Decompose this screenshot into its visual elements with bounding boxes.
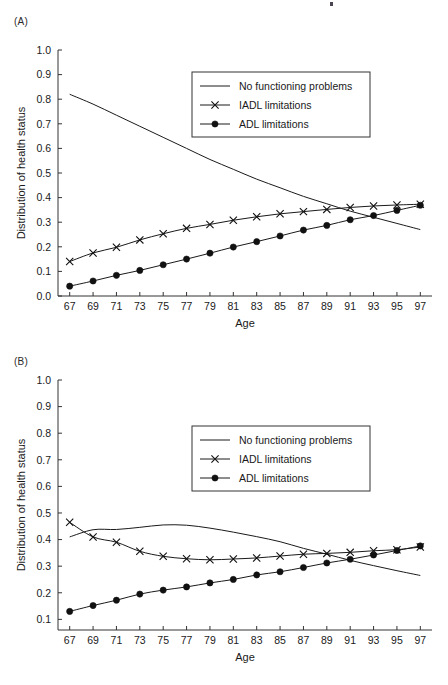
y-tick-label: 1.0	[36, 44, 51, 56]
y-tick-label: 0.1	[36, 613, 51, 625]
x-tick-label: 79	[204, 300, 216, 312]
y-tick-label: 0.8	[36, 427, 51, 439]
x-tick-label: 77	[181, 634, 193, 646]
series-line-3	[70, 546, 421, 611]
dot-marker-icon	[113, 272, 119, 278]
x-tick-label: 71	[111, 634, 123, 646]
x-tick-label: 81	[227, 634, 239, 646]
legend-label: IADL limitations	[239, 99, 312, 111]
x-tick-label: 73	[134, 300, 146, 312]
dot-marker-icon	[137, 591, 143, 597]
x-tick-label: 79	[204, 634, 216, 646]
dot-marker-icon	[137, 267, 143, 273]
panel-a: (A) 0.00.10.20.30.40.50.60.70.80.91.0676…	[0, 0, 448, 345]
dot-marker-icon	[324, 560, 330, 566]
dot-marker-icon	[254, 239, 260, 245]
x-marker-icon	[136, 548, 143, 555]
legend-label: No functioning problems	[239, 434, 352, 446]
x-marker-icon	[160, 230, 167, 237]
dot-marker-icon	[113, 597, 119, 603]
y-tick-label: 0.9	[36, 68, 51, 80]
legend-label: ADL limitations	[239, 118, 309, 130]
x-marker-icon	[89, 249, 96, 256]
y-tick-label: 0.9	[36, 400, 51, 412]
dot-marker-icon	[347, 217, 353, 223]
x-tick-label: 69	[87, 300, 99, 312]
x-tick-label: 85	[274, 300, 286, 312]
x-tick-label: 93	[368, 300, 380, 312]
dot-marker-icon	[417, 543, 423, 549]
series-line-2	[70, 522, 421, 560]
y-tick-label: 0.5	[36, 507, 51, 519]
dot-marker-icon	[300, 564, 306, 570]
legend-dot-marker-icon	[212, 121, 218, 127]
y-tick-label: 0.2	[36, 241, 51, 253]
legend-label: ADL limitations	[239, 472, 309, 484]
y-tick-label: 0.4	[36, 191, 51, 203]
dot-marker-icon	[417, 202, 423, 208]
dot-marker-icon	[394, 207, 400, 213]
x-tick-label: 75	[157, 634, 169, 646]
x-tick-label: 97	[414, 300, 426, 312]
x-tick-label: 69	[87, 634, 99, 646]
x-tick-label: 67	[64, 300, 76, 312]
y-tick-label: 0.5	[36, 167, 51, 179]
x-tick-label: 85	[274, 634, 286, 646]
dot-marker-icon	[254, 572, 260, 578]
x-marker-icon	[136, 236, 143, 243]
dot-marker-icon	[207, 580, 213, 586]
dot-marker-icon	[90, 602, 96, 608]
x-marker-icon	[66, 519, 73, 526]
x-tick-label: 83	[251, 300, 263, 312]
y-tick-label: 0.8	[36, 93, 51, 105]
x-axis-title: Age	[235, 651, 255, 663]
dot-marker-icon	[370, 212, 376, 218]
y-tick-label: 0.2	[36, 587, 51, 599]
dot-marker-icon	[230, 576, 236, 582]
dot-marker-icon	[370, 552, 376, 558]
x-tick-label: 95	[391, 634, 403, 646]
y-tick-label: 0.6	[36, 142, 51, 154]
dot-marker-icon	[160, 262, 166, 268]
x-marker-icon	[113, 539, 120, 546]
x-tick-label: 95	[391, 300, 403, 312]
dot-marker-icon	[324, 222, 330, 228]
chart-b: 0.10.20.30.40.50.60.70.80.91.06769717375…	[0, 340, 448, 685]
x-tick-label: 97	[414, 634, 426, 646]
y-tick-label: 0.6	[36, 480, 51, 492]
series-line-2	[70, 204, 421, 261]
dot-marker-icon	[183, 584, 189, 590]
y-tick-label: 0.0	[36, 290, 51, 302]
dot-marker-icon	[347, 556, 353, 562]
x-tick-label: 87	[298, 300, 310, 312]
x-tick-label: 73	[134, 634, 146, 646]
x-tick-label: 81	[227, 300, 239, 312]
y-tick-label: 0.7	[36, 118, 51, 130]
dot-marker-icon	[160, 587, 166, 593]
x-tick-label: 87	[298, 634, 310, 646]
dot-marker-icon	[67, 283, 73, 289]
legend-label: No functioning problems	[239, 80, 352, 92]
panel-b: (B) 0.10.20.30.40.50.60.70.80.91.0676971…	[0, 340, 448, 685]
y-axis-title: Distribution of health status	[15, 106, 27, 239]
legend-dot-marker-icon	[212, 475, 218, 481]
dot-marker-icon	[230, 244, 236, 250]
x-tick-label: 91	[344, 300, 356, 312]
y-tick-label: 1.0	[36, 374, 51, 386]
x-tick-label: 77	[181, 300, 193, 312]
x-tick-label: 75	[157, 300, 169, 312]
x-tick-label: 93	[368, 634, 380, 646]
x-marker-icon	[89, 533, 96, 540]
x-axis-title: Age	[235, 317, 255, 329]
y-axis-title: Distribution of health status	[15, 438, 27, 571]
dot-marker-icon	[277, 569, 283, 575]
x-tick-label: 89	[321, 634, 333, 646]
x-tick-label: 91	[344, 634, 356, 646]
x-tick-label: 89	[321, 300, 333, 312]
y-tick-label: 0.3	[36, 560, 51, 572]
y-tick-label: 0.1	[36, 265, 51, 277]
y-tick-label: 0.3	[36, 216, 51, 228]
x-marker-icon	[113, 244, 120, 251]
dot-marker-icon	[67, 608, 73, 614]
x-tick-label: 67	[64, 634, 76, 646]
